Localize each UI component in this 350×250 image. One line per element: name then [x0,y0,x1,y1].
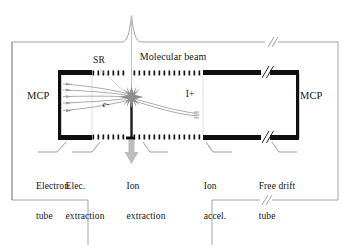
drift-tube-top-bar-right [270,70,299,75]
break-mark-top-wall-icon [268,37,278,47]
caption-free-drift-tube-line2: tube [259,211,296,221]
drift-tube-bottom-bar-right [270,135,299,140]
ion-label: I+ [186,89,195,99]
caption-ion-accel-line2: accel. [204,211,226,221]
mcp-left-plate [58,73,61,138]
caption-free-drift-tube: Free drift tube [259,160,296,232]
electron-trajectories [63,84,129,111]
mcp-left-top-flange [58,70,92,75]
caption-elec-extraction-line2: extraction [66,211,105,221]
caption-elec-extraction-line1: Elec. [66,181,105,191]
caption-ion-accel: Ion accel. [204,160,226,232]
caption-ion-extraction: Ion extraction [127,160,166,232]
mcp-left-label: MCP [27,90,49,101]
ion-trajectories [134,99,197,116]
caption-ion-accel-line1: Ion [204,181,226,191]
electrode-grid-top [93,71,201,76]
caption-electron-tube-line1: Electron [36,181,69,191]
caption-free-drift-tube-line1: Free drift [259,181,296,191]
mcp-right-plate [296,73,299,138]
interaction-point-burst-icon [120,86,144,108]
mcp-right-label: MCP [300,90,322,101]
synchrotron-radiation-label: SR [93,55,105,65]
mcp-left-bottom-flange [58,135,92,140]
drift-tube-top-bar-left [203,70,261,75]
ion-arrowheads [194,112,199,119]
electron-arrowheads [66,83,72,113]
drift-tube-bottom-bar-left [203,135,261,140]
caption-electron-tube: Electron tube [36,160,69,232]
caption-electron-tube-line2: tube [36,211,69,221]
caption-elec-extraction: Elec. extraction [66,160,105,232]
molecular-beam-label: Molecular beam [140,52,207,63]
caption-ion-extraction-line1: Ion [127,181,166,191]
caption-leader-lines [38,142,297,152]
electron-label: e- [103,100,110,109]
electrode-grid-bottom [93,135,201,140]
caption-ion-extraction-line2: extraction [127,211,166,221]
